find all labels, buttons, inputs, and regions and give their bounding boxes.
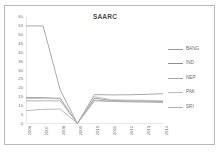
axis-lines: [26, 17, 163, 124]
legend-item-nep[interactable]: NEP: [168, 73, 195, 83]
legend-item-label: NEP: [186, 76, 195, 81]
legend-item-label: SRI: [186, 105, 194, 110]
legend-color-swatch: [168, 63, 183, 64]
legend-color-swatch: [168, 49, 183, 50]
x-axis-tick-label: 2012: [130, 126, 134, 135]
chart-legend: BANGINDNEPPAKSRI: [168, 44, 214, 116]
y-axis-tick-label: 0: [21, 122, 23, 126]
y-axis-tick-label: 5: [21, 113, 23, 117]
y-axis-tick-labels: 051015202530354045505560: [5, 17, 25, 124]
y-axis-tick-label: 60: [18, 15, 23, 19]
chart-svg: [26, 17, 163, 124]
y-axis-tick-label: 40: [18, 51, 23, 55]
y-axis-tick-label: 10: [18, 104, 23, 108]
x-axis-tick-label: 2013: [147, 126, 151, 135]
y-axis-tick-label: 55: [18, 24, 23, 28]
y-axis-tick-label: 45: [18, 42, 23, 46]
y-axis-tick-label: 35: [18, 59, 23, 63]
plot-area: [26, 17, 163, 124]
legend-color-swatch: [168, 107, 183, 108]
series-line-nep: [26, 100, 163, 123]
legend-color-swatch: [168, 78, 183, 79]
x-axis-tick-label: 2009: [79, 126, 83, 135]
x-axis-tick-label: 2014: [165, 126, 169, 135]
x-axis-tick-label: 2008: [62, 126, 66, 135]
y-axis-tick-label: 25: [18, 77, 23, 81]
y-axis-tick-label: 30: [18, 68, 23, 72]
legend-item-bang[interactable]: BANG: [168, 44, 199, 54]
x-axis-tick-labels: 200620072008200920102011201220132014: [26, 125, 163, 147]
series-line-bang: [26, 26, 163, 124]
x-axis-tick-label: 2007: [45, 126, 49, 135]
y-axis-tick-label: 20: [18, 86, 23, 90]
legend-item-label: IND: [186, 61, 194, 66]
y-axis-tick-label: 50: [18, 33, 23, 37]
legend-color-swatch: [168, 92, 183, 93]
legend-item-pak[interactable]: PAK: [168, 88, 195, 98]
legend-item-ind[interactable]: IND: [168, 59, 194, 69]
x-axis-tick-label: 2011: [113, 126, 117, 135]
x-axis-tick-label: 2010: [96, 126, 100, 135]
series-line-sri: [26, 101, 163, 124]
data-series-group: [26, 26, 163, 124]
legend-item-label: BANG: [186, 47, 199, 52]
axis-tick-marks: [26, 17, 163, 124]
x-axis-tick-label: 2006: [28, 126, 32, 135]
y-axis-tick-label: 15: [18, 95, 23, 99]
legend-item-label: PAK: [186, 90, 195, 95]
chart-figure: SAARC 051015202530354045505560 200620072…: [4, 5, 215, 145]
legend-item-sri[interactable]: SRI: [168, 102, 194, 112]
